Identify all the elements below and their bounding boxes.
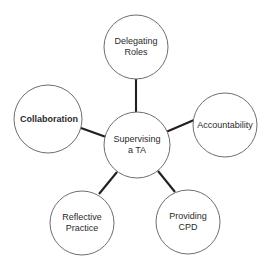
- mind-map-diagram: Delegating Roles Accountability Providin…: [0, 0, 272, 268]
- connector-center-to-collaboration: [81, 128, 106, 137]
- node-circle-group: [14, 15, 257, 255]
- connector-center-to-accountability: [166, 120, 194, 132]
- connector-center-to-providing-cpd: [158, 171, 175, 192]
- diagram-canvas: [0, 0, 272, 268]
- node-circle-delegating-roles[interactable]: [104, 15, 168, 79]
- connector-center-to-reflective-practice: [99, 172, 117, 194]
- node-circle-accountability[interactable]: [193, 93, 257, 157]
- node-circle-providing-cpd[interactable]: [156, 190, 220, 254]
- node-circle-collaboration[interactable]: [14, 85, 82, 153]
- node-circle-reflective-practice[interactable]: [50, 191, 114, 255]
- node-circle-supervising-a-ta[interactable]: [104, 112, 170, 178]
